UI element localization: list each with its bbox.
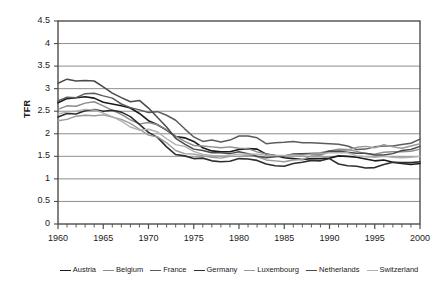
legend-label: Austria (73, 266, 96, 274)
y-tick-label: 0.5 (24, 196, 50, 205)
y-tick-label: 2.5 (24, 106, 50, 115)
y-tick-label: 4 (24, 39, 50, 48)
legend-line-swatch (306, 270, 317, 271)
legend-item-austria[interactable]: Austria (60, 266, 96, 274)
legend-item-germany[interactable]: Germany (194, 266, 238, 274)
legend-line-swatch (194, 270, 205, 271)
y-tick-label: 4.5 (24, 16, 50, 25)
y-tick-label: 1.5 (24, 151, 50, 160)
legend-item-netherlands[interactable]: Netherlands (306, 266, 359, 274)
chart-legend: AustriaBelgiumFranceGermanyLuxembourgNet… (58, 266, 420, 274)
data-series-group (58, 79, 420, 168)
legend-line-swatch (367, 270, 378, 271)
x-tick-label: 1980 (219, 234, 259, 243)
x-tick-label: 1975 (174, 234, 214, 243)
x-tick-label: 2000 (400, 234, 440, 243)
plot-border (58, 21, 420, 224)
tfr-line-chart: TFR 4.543.532.521.510.50 196019651970197… (0, 0, 443, 293)
legend-label: Belgium (116, 266, 143, 274)
y-tick-label: 0 (24, 219, 50, 228)
legend-label: Switzerland (380, 266, 419, 274)
y-tick-label: 1 (24, 174, 50, 183)
legend-label: Germany (207, 266, 238, 274)
y-tick-label: 3 (24, 84, 50, 93)
x-tick-label: 1960 (38, 234, 78, 243)
y-tick-label: 3.5 (24, 61, 50, 70)
legend-line-swatch (244, 270, 255, 271)
legend-label: France (163, 266, 186, 274)
x-tick-label: 1995 (355, 234, 395, 243)
legend-line-swatch (103, 270, 114, 271)
x-axis-ticks (58, 224, 420, 229)
chart-plot-svg (0, 0, 443, 293)
legend-item-luxembourg[interactable]: Luxembourg (244, 266, 299, 274)
legend-item-switzerland[interactable]: Switzerland (367, 266, 419, 274)
x-tick-label: 1965 (83, 234, 123, 243)
legend-item-belgium[interactable]: Belgium (103, 266, 143, 274)
legend-line-swatch (60, 270, 71, 271)
series-line-france (58, 93, 420, 149)
legend-label: Luxembourg (257, 266, 299, 274)
legend-line-swatch (150, 270, 161, 271)
legend-item-france[interactable]: France (150, 266, 186, 274)
gridlines (58, 44, 420, 202)
x-tick-label: 1970 (129, 234, 169, 243)
x-tick-label: 1985 (264, 234, 304, 243)
x-tick-label: 1990 (310, 234, 350, 243)
y-tick-label: 2 (24, 129, 50, 138)
legend-label: Netherlands (319, 266, 359, 274)
